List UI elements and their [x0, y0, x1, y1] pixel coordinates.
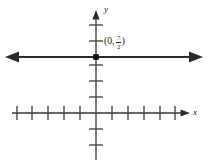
- label-separator: ,: [112, 37, 114, 47]
- y-axis-label: y: [104, 5, 108, 14]
- label-fraction: 7 2: [116, 34, 121, 50]
- graphed-line-group: [5, 52, 203, 63]
- x-axis-label: x: [193, 108, 197, 117]
- point-coordinate-label: ( 0 , 7 2 ): [104, 34, 125, 50]
- fraction-numerator: 7: [117, 34, 121, 41]
- graphed-line-left-arrowhead-icon: [5, 52, 19, 63]
- graphed-line-right-arrowhead-icon: [189, 52, 203, 63]
- label-close-paren: ): [122, 37, 125, 47]
- coordinate-plane-figure: y x ( 0 , 7 2 ): [0, 0, 208, 166]
- fraction-denominator: 2: [117, 43, 121, 50]
- x-axis-group: [12, 106, 190, 120]
- y-intercept-point-marker: [93, 54, 99, 60]
- x-axis-arrowhead-icon: [181, 109, 191, 116]
- graph-canvas: [0, 0, 208, 166]
- y-axis-group: [89, 10, 103, 160]
- y-axis-arrowhead-icon: [92, 10, 99, 20]
